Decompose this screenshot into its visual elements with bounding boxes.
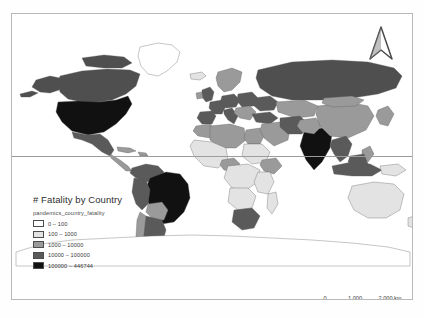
country-japan[interactable]: [376, 106, 394, 126]
country-united-kingdom[interactable]: [202, 87, 214, 102]
legend-item-class-1[interactable]: 0 – 100: [33, 219, 153, 228]
legend-label-class-1: 0 – 100: [48, 221, 67, 227]
scale-bar: 0 1,000 2,000 km: [322, 295, 408, 300]
scale-bar-tick-2: 2,000 km: [378, 295, 401, 300]
legend-title: # Fatality by Country: [33, 194, 153, 205]
legend: # Fatality by Country pandemics_country_…: [33, 194, 153, 272]
country-southeast-asia[interactable]: [330, 136, 352, 162]
country-ukraine[interactable]: [253, 96, 278, 111]
country-east-africa[interactable]: [254, 172, 274, 194]
country-russia[interactable]: [256, 60, 402, 100]
country-new-guinea[interactable]: [380, 164, 406, 176]
legend-item-class-2[interactable]: 100 – 1000: [33, 230, 153, 239]
map-layout-page: # Fatality by Country pandemics_country_…: [0, 0, 424, 318]
scale-bar-tick-1: 1,000: [348, 295, 362, 300]
country-mexico[interactable]: [72, 132, 114, 156]
legend-swatch-class-1: [33, 220, 44, 227]
legend-label-class-5: 100000 – 446744: [48, 263, 93, 269]
country-angola[interactable]: [228, 188, 256, 210]
legend-swatch-class-2: [33, 231, 44, 238]
country-kazakhstan[interactable]: [276, 100, 318, 118]
country-ethiopia[interactable]: [260, 158, 282, 174]
graticule-equator: [12, 156, 412, 157]
legend-label-class-4: 10000 – 100000: [48, 252, 90, 258]
country-united-states[interactable]: [56, 96, 132, 135]
legend-item-class-3[interactable]: 1000 – 10000: [33, 240, 153, 249]
legend-item-class-5[interactable]: 100000 – 446744: [33, 261, 153, 270]
country-new-zealand[interactable]: [408, 216, 413, 228]
country-canada-arctic[interactable]: [82, 55, 132, 68]
country-ireland[interactable]: [196, 92, 203, 99]
scale-bar-labels: 0 1,000 2,000 km: [322, 295, 408, 300]
legend-item-class-4[interactable]: 10000 – 100000: [33, 251, 153, 260]
country-madagascar[interactable]: [267, 192, 278, 214]
country-iceland[interactable]: [190, 72, 206, 80]
legend-layer-name: pandemics_country_fatality: [33, 210, 153, 216]
country-scandinavia[interactable]: [216, 68, 242, 92]
legend-swatch-class-4: [33, 252, 44, 259]
north-arrow-icon: [364, 23, 398, 65]
country-cuba[interactable]: [117, 147, 136, 153]
legend-label-class-3: 1000 – 10000: [48, 242, 83, 248]
country-australia[interactable]: [348, 182, 404, 218]
country-greenland[interactable]: [138, 43, 180, 76]
country-turkey[interactable]: [252, 112, 278, 124]
legend-label-class-2: 100 – 1000: [48, 231, 77, 237]
country-spain[interactable]: [197, 111, 216, 124]
country-balkans[interactable]: [234, 106, 256, 120]
country-central-africa[interactable]: [224, 164, 260, 190]
country-south-africa[interactable]: [232, 208, 260, 230]
country-aleutians[interactable]: [20, 91, 38, 97]
country-india[interactable]: [300, 128, 332, 170]
scale-bar-tick-0: 0: [323, 295, 326, 300]
legend-swatch-class-5: [33, 262, 44, 269]
legend-swatch-class-3: [33, 241, 44, 248]
map-frame[interactable]: # Fatality by Country pandemics_country_…: [11, 13, 413, 300]
